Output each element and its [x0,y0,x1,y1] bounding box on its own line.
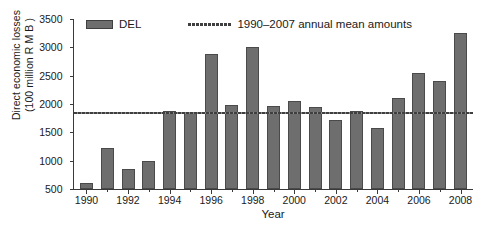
y-axis-tick [70,161,75,162]
bar-2006 [412,73,425,189]
bar-2001 [309,107,322,189]
bar-1990 [80,183,93,189]
bar-2000 [288,101,301,189]
bar-1991 [101,148,114,189]
x-axis-minor-tick [107,189,108,192]
x-axis-minor-tick [232,189,233,192]
bar-1992 [122,169,135,189]
x-axis-tick-label: 1992 [116,194,139,206]
y-axis-tick [70,104,75,105]
y-axis-tick-label: 2500 [39,70,62,82]
legend-entry-mean: 1990–2007 annual mean amounts [188,18,412,30]
y-axis-title-line1: Direct economic losses [10,0,23,150]
bar-1996 [205,54,218,189]
y-axis-tick [70,132,75,133]
x-axis-tick-label: 2004 [366,194,389,206]
bar-2004 [371,128,384,189]
x-axis-tick [419,189,420,194]
y-axis-tick-label: 1500 [39,126,62,138]
y-axis-tick-label: 500 [45,183,63,195]
y-axis-title-line2: (100 million R M B ) [23,0,36,150]
x-axis-tick [294,189,295,194]
x-axis-tick-label: 2000 [283,194,306,206]
x-axis-tick [461,189,462,194]
x-axis-tick [86,189,87,194]
x-axis-minor-tick [149,189,150,192]
legend-entry-del: DEL [86,18,141,30]
y-axis-title: Direct economic losses (100 million R M … [10,0,36,150]
bar-1998 [246,47,259,189]
legend-dashed-line-icon [188,23,232,26]
y-axis-tick [70,76,75,77]
bar-1997 [225,105,238,189]
y-axis-tick [70,189,75,190]
x-axis-tick-label: 1994 [158,194,181,206]
x-axis-tick [336,189,337,194]
x-axis-tick-label: 2008 [449,194,472,206]
x-axis-tick-label: 1998 [241,194,264,206]
x-axis-tick-label: 2002 [324,194,347,206]
y-axis-tick [70,19,75,20]
bar-1999 [267,106,280,189]
bar-2007 [433,81,446,189]
x-axis-minor-tick [190,189,191,192]
x-axis-minor-tick [398,189,399,192]
mean-reference-line [74,112,473,114]
bar-2003 [350,111,363,189]
bar-1993 [142,161,155,189]
y-axis-tick-label: 3000 [39,41,62,53]
bar-2002 [329,120,342,189]
chart-figure: Direct economic losses (100 million R M … [0,0,481,229]
chart-legend: DEL 1990–2007 annual mean amounts [86,18,412,30]
bar-1995 [184,113,197,189]
bar-1994 [163,111,176,189]
y-axis-tick-label: 1000 [39,155,62,167]
legend-label-del: DEL [119,18,141,30]
y-axis-tick-label: 3500 [39,13,62,25]
y-axis-tick [70,47,75,48]
legend-bar-swatch-icon [86,20,113,29]
x-axis-tick [211,189,212,194]
x-axis-tick [377,189,378,194]
x-axis-minor-tick [315,189,316,192]
x-axis-minor-tick [274,189,275,192]
x-axis-tick-label: 2006 [407,194,430,206]
x-axis-tick [253,189,254,194]
plot-area: 5001000150020002500300035001990199219941… [73,19,473,190]
x-axis-minor-tick [357,189,358,192]
x-axis-tick [170,189,171,194]
x-axis-minor-tick [440,189,441,192]
x-axis-title: Year [73,208,473,220]
y-axis-tick-label: 2000 [39,98,62,110]
x-axis-tick-label: 1996 [199,194,222,206]
x-axis-tick [128,189,129,194]
x-axis-tick-label: 1990 [75,194,98,206]
legend-label-mean: 1990–2007 annual mean amounts [237,18,412,30]
